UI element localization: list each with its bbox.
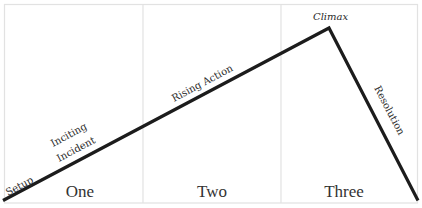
story-arc-line [3, 28, 418, 201]
label-setup: Setup [4, 174, 35, 198]
label-resolution: Resolution [372, 84, 407, 137]
act-label-one: One [66, 182, 94, 201]
act-label-two: Two [197, 182, 227, 201]
act-label-three: Three [324, 182, 364, 201]
diagram-frame [5, 5, 418, 204]
story-arc-diagram: Setup Inciting Incident Rising Action Cl… [0, 0, 422, 208]
label-climax: Climax [313, 11, 348, 22]
